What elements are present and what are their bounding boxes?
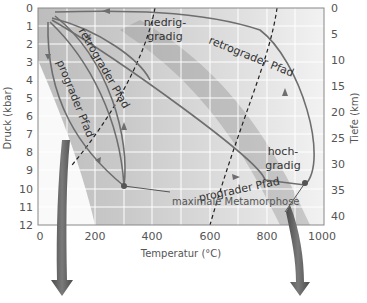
pt-diagram: 0 1 2 3 4 5 6 7 8 9 10 11 12 Druck (kbar… [0, 0, 367, 303]
svg-text:12: 12 [19, 219, 33, 232]
svg-text:3: 3 [26, 56, 33, 69]
svg-text:9: 9 [26, 164, 33, 177]
svg-text:4: 4 [26, 74, 33, 87]
low-grade-label-2: gradig [147, 30, 182, 43]
svg-text:30: 30 [331, 158, 345, 171]
svg-text:10: 10 [19, 183, 33, 196]
svg-text:7: 7 [26, 128, 33, 141]
svg-text:35: 35 [331, 184, 345, 197]
svg-text:800: 800 [257, 230, 278, 243]
svg-text:1000: 1000 [308, 230, 336, 243]
svg-text:40: 40 [331, 210, 345, 223]
svg-text:600: 600 [200, 230, 221, 243]
x-axis-label: Temperatur (°C) [140, 248, 221, 259]
svg-text:5: 5 [26, 92, 33, 105]
svg-text:2: 2 [26, 38, 33, 51]
svg-text:8: 8 [26, 146, 33, 159]
svg-text:1: 1 [26, 20, 33, 33]
svg-text:0: 0 [26, 2, 33, 15]
y-axis-left-label: Druck (kbar) [2, 87, 13, 150]
y-axis-left-ticks: 0 1 2 3 4 5 6 7 8 9 10 11 12 [19, 2, 33, 232]
svg-text:20: 20 [331, 106, 345, 119]
y-axis-right-ticks: 0 5 10 15 20 25 30 35 40 [331, 2, 345, 223]
max-metamorphism-label: maximale Metamorphose [172, 196, 300, 207]
svg-text:10: 10 [331, 54, 345, 67]
svg-text:15: 15 [331, 80, 345, 93]
high-grade-label-2: gradig [265, 159, 300, 172]
svg-text:0: 0 [331, 2, 338, 15]
svg-text:6: 6 [26, 110, 33, 123]
high-grade-label-1: hoch- [268, 145, 299, 158]
svg-text:11: 11 [19, 201, 33, 214]
svg-text:200: 200 [85, 230, 106, 243]
y-axis-right-label: Tiefe (km) [349, 92, 360, 144]
svg-text:5: 5 [331, 28, 338, 41]
svg-text:400: 400 [142, 230, 163, 243]
svg-text:0: 0 [37, 230, 44, 243]
low-grade-label-1: niedrig- [144, 16, 186, 29]
svg-text:25: 25 [331, 132, 345, 145]
